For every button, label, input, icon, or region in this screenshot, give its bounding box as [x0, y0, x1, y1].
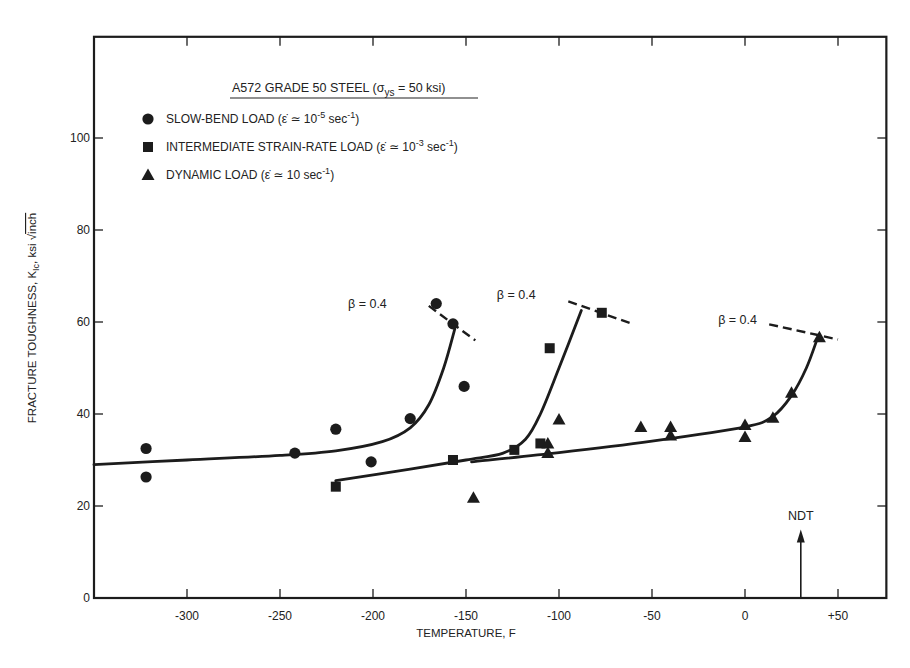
x-axis-label: TEMPERATURE, F	[416, 627, 515, 639]
y-tick-label: 40	[77, 407, 91, 421]
x-tick-label: -150	[454, 609, 478, 623]
beta-dashed-line	[769, 324, 838, 339]
square-data-point	[545, 343, 555, 353]
beta-label: β = 0.4	[348, 297, 387, 311]
y-axis-label: FRACTURE TOUGHNESS, KIc, ksi √inch	[26, 213, 41, 423]
beta-label: β = 0.4	[718, 313, 757, 327]
circle-data-point	[459, 381, 470, 392]
y-tick-label: 60	[77, 315, 91, 329]
y-tick-label: 80	[77, 223, 91, 237]
fracture-toughness-chart: -300-250-200-150-100-500+50020406080100 …	[0, 0, 910, 668]
data-points	[140, 298, 825, 503]
circle-data-point	[447, 318, 458, 329]
triangle-data-point	[553, 413, 566, 425]
circle-data-point	[140, 471, 151, 482]
legend-label: INTERMEDIATE STRAIN-RATE LOAD (ε̇ ≃ 10-3…	[166, 138, 458, 154]
annotations: β = 0.4β = 0.4β = 0.4NDT	[348, 288, 814, 598]
x-tick-label: -250	[268, 609, 292, 623]
axis-tick-labels: -300-250-200-150-100-500+50020406080100	[70, 131, 849, 623]
x-tick-label: +50	[828, 609, 849, 623]
circle-data-point	[289, 448, 300, 459]
circle-data-point	[431, 298, 442, 309]
y-tick-label: 100	[70, 131, 90, 145]
legend-triangle-icon	[142, 169, 155, 181]
x-tick-label: -100	[547, 609, 571, 623]
circle-data-point	[366, 456, 377, 467]
legend-title: A572 GRADE 50 STEEL (σys = 50 ksi)	[232, 81, 446, 98]
legend-circle-icon	[142, 113, 153, 124]
legend-label: DYNAMIC LOAD (ε̇ ≃ 10 sec-1)	[166, 166, 334, 182]
square-data-point	[597, 308, 607, 318]
y-tick-label: 0	[83, 591, 90, 605]
triangle-data-point	[739, 431, 752, 443]
x-tick-label: -200	[361, 609, 385, 623]
ndt-label: NDT	[788, 509, 814, 523]
beta-lines	[429, 301, 838, 340]
trend-curve	[472, 338, 818, 462]
legend-items: SLOW-BEND LOAD (ε̇ ≃ 10-5 sec-1)INTERMED…	[142, 110, 458, 182]
x-tick-label: -50	[643, 609, 661, 623]
legend: A572 GRADE 50 STEEL (σys = 50 ksi) SLOW-…	[142, 81, 479, 182]
square-data-point	[509, 445, 519, 455]
circle-data-point	[405, 413, 416, 424]
legend-square-icon	[143, 142, 153, 152]
square-data-point	[448, 455, 458, 465]
triangle-data-point	[467, 491, 480, 503]
circle-data-point	[330, 424, 341, 435]
x-tick-label: 0	[742, 609, 749, 623]
triangle-data-point	[634, 420, 647, 432]
beta-label: β = 0.4	[497, 288, 536, 302]
circle-data-point	[140, 443, 151, 454]
x-tick-label: -300	[175, 609, 199, 623]
ndt-arrow-icon	[797, 530, 805, 543]
triangle-data-point	[739, 419, 752, 431]
square-data-point	[331, 482, 341, 492]
y-tick-label: 20	[77, 499, 91, 513]
legend-label: SLOW-BEND LOAD (ε̇ ≃ 10-5 sec-1)	[166, 110, 359, 126]
